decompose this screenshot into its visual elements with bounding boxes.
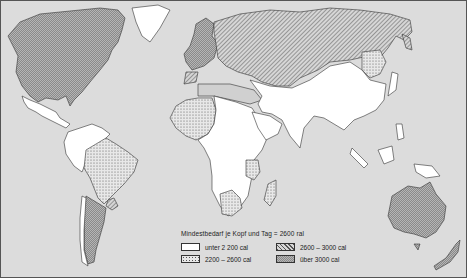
legend-item-under-2200: unter 2 200 cal bbox=[181, 243, 276, 251]
region-borneo bbox=[378, 146, 394, 164]
legend-label: 2200 – 2600 cal bbox=[205, 256, 251, 263]
legend-item-over-3000: über 3000 cal bbox=[276, 255, 381, 263]
region-madagascar bbox=[264, 180, 276, 206]
legend: Mindestbedarf je Kopf und Tag = 2600 ral… bbox=[181, 230, 381, 263]
swatch-white bbox=[181, 243, 200, 251]
region-japan bbox=[388, 72, 398, 96]
legend-label: unter 2 200 cal bbox=[205, 244, 248, 251]
region-australia bbox=[388, 182, 446, 238]
region-north-america bbox=[8, 8, 125, 106]
region-tasmania bbox=[414, 244, 420, 250]
region-ussr bbox=[214, 8, 412, 86]
region-kamchatka bbox=[402, 34, 412, 50]
region-philippines bbox=[396, 124, 404, 140]
world-map: Mindestbedarf je Kopf und Tag = 2600 ral… bbox=[0, 0, 467, 278]
legend-title: Mindestbedarf je Kopf und Tag = 2600 ral bbox=[181, 230, 381, 237]
region-sumatra bbox=[350, 148, 368, 168]
swatch-crosshatch bbox=[276, 255, 295, 263]
region-argentina bbox=[84, 196, 106, 264]
region-iberia bbox=[184, 72, 198, 84]
legend-label: 2600 – 3000 cal bbox=[300, 244, 346, 251]
legend-item-2200-2600: 2200 – 2600 cal bbox=[181, 255, 276, 263]
region-central-america bbox=[22, 96, 70, 128]
region-manchuria bbox=[362, 50, 386, 78]
legend-item-2600-3000: 2600 – 3000 cal bbox=[276, 243, 381, 251]
region-new-guinea bbox=[414, 164, 440, 178]
legend-label: über 3000 cal bbox=[300, 256, 339, 263]
swatch-hatch bbox=[276, 243, 295, 251]
region-brazil bbox=[84, 138, 138, 204]
region-western-europe bbox=[184, 18, 218, 70]
region-uruguay bbox=[106, 198, 118, 210]
region-east-africa bbox=[246, 160, 260, 180]
region-greenland bbox=[132, 5, 170, 42]
region-new-zealand bbox=[434, 240, 460, 270]
swatch-dots bbox=[181, 255, 200, 263]
